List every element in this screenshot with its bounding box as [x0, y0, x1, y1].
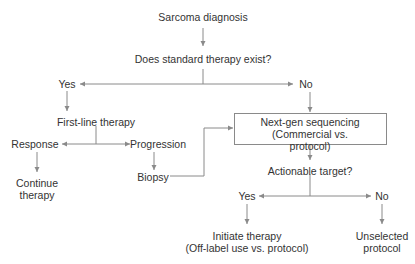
- node-initiate-therapy: Initiate therapy (Off-label use vs. prot…: [186, 230, 309, 254]
- node-biopsy: Biopsy: [137, 171, 169, 183]
- node-yes-actionable: Yes: [238, 190, 255, 202]
- node-no-standard: No: [299, 78, 312, 90]
- node-next-gen-sequencing: Next-gen sequencing (Commercial vs. prot…: [258, 116, 363, 152]
- node-actionable-target-question: Actionable target?: [268, 165, 353, 177]
- node-progression: Progression: [130, 138, 186, 150]
- node-continue-therapy: Continue therapy: [16, 177, 58, 201]
- node-standard-therapy-question: Does standard therapy exist?: [135, 53, 272, 65]
- node-no-actionable: No: [375, 190, 388, 202]
- node-response: Response: [11, 138, 58, 150]
- node-unselected-protocol: Unselected protocol: [356, 230, 409, 254]
- node-yes-standard: Yes: [58, 78, 75, 90]
- node-first-line-therapy: First-line therapy: [57, 116, 135, 128]
- node-sarcoma-diagnosis: Sarcoma diagnosis: [158, 11, 247, 23]
